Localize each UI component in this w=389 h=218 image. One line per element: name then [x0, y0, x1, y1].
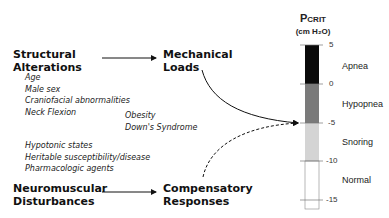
- tick-minus5: -5: [328, 118, 335, 127]
- pcrit-title-sub: CRIT: [307, 15, 326, 24]
- mechanical-to-pcrit-arrow: [202, 70, 298, 123]
- label-normal: Normal: [342, 175, 371, 185]
- pcrit-title: PCRIT (cm H₂O): [292, 8, 334, 36]
- tick-minus15: -15: [326, 195, 338, 204]
- pcrit-scale-bar: [300, 45, 323, 209]
- zone-hypopnea: [305, 84, 319, 123]
- label-snoring: Snoring: [342, 137, 373, 147]
- tick-5: 5: [329, 40, 333, 49]
- label-apnea: Apnea: [342, 61, 368, 71]
- zone-normal: [305, 161, 319, 209]
- tick-minus10: -10: [326, 156, 338, 165]
- label-hypopnea: Hypopnea: [342, 99, 383, 109]
- compensatory-to-pcrit-dashed-arrow: [203, 123, 298, 177]
- zone-apnea: [305, 45, 319, 84]
- tick-0: 0: [329, 79, 333, 88]
- pcrit-unit: (cm H₂O): [292, 27, 334, 36]
- zone-snoring: [305, 123, 319, 161]
